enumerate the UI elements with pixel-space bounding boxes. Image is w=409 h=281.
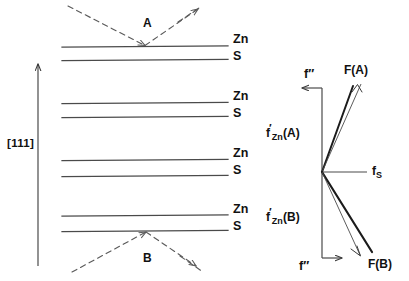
- f-s-subscript: S: [376, 170, 382, 180]
- vector-label-fb: F(B): [368, 258, 392, 270]
- f-zn-b-subscript: Zn: [272, 216, 283, 226]
- layer-label-s-1: S: [233, 50, 242, 63]
- lattice-plane-group: [62, 46, 228, 232]
- diffraction-rays-a: [68, 6, 198, 46]
- fa-thin: [322, 84, 361, 172]
- vector-resultant-fb: [322, 172, 372, 256]
- vector-resultant-fa: [322, 84, 362, 172]
- layer-label-s-2: S: [233, 107, 242, 120]
- lattice-line-zn-4: [62, 215, 228, 216]
- fa-thick: [322, 86, 353, 172]
- layer-label-zn-3: Zn: [233, 147, 249, 160]
- lattice-line-s-4: [62, 231, 228, 232]
- vector-label-f-double-prime-bottom: f″: [299, 260, 309, 273]
- incident-ray-b: [72, 232, 146, 272]
- vector-label-fa: F(A): [344, 64, 368, 76]
- diffraction-rays-a-tail: [178, 6, 202, 22]
- layer-label-zn-4: Zn: [233, 203, 249, 216]
- f-zn-a-argument: (A): [283, 126, 300, 140]
- incident-ray-a: [68, 6, 145, 46]
- diffraction-rays-b-tail: [180, 256, 203, 272]
- f-zn-b-argument: (B): [283, 210, 300, 224]
- figure-canvas: A B [111] Zn S Zn S Zn S Zn S f″ f″ F(A)…: [0, 0, 409, 281]
- lattice-line-s-1: [62, 60, 228, 61]
- diffraction-point-label-b: B: [143, 252, 152, 264]
- lattice-line-s-2: [62, 117, 228, 118]
- lattice-line-zn-3: [62, 160, 228, 161]
- fb-thick: [322, 172, 372, 252]
- layer-label-zn-1: Zn: [233, 33, 249, 46]
- layer-label-zn-2: Zn: [233, 90, 249, 103]
- fb-arrowhead: [351, 246, 361, 256]
- lattice-line-zn-1: [62, 46, 228, 47]
- vector-label-f-zn-a: f′Zn(A): [266, 123, 300, 142]
- vector-label-f-double-prime-top: f″: [304, 68, 314, 81]
- f-zn-a-subscript: Zn: [272, 132, 283, 142]
- figure-vector-layer: [0, 0, 409, 281]
- diffraction-rays-b: [72, 232, 196, 272]
- lattice-line-s-3: [62, 176, 228, 177]
- direction-label-111: [111]: [7, 138, 34, 150]
- vector-label-f-s: fS: [372, 165, 382, 180]
- diffracted-ray-b: [146, 232, 196, 266]
- layer-label-s-4: S: [233, 220, 242, 233]
- diffraction-point-label-a: A: [143, 17, 152, 29]
- fb-thin: [322, 172, 360, 255]
- lattice-line-zn-2: [62, 103, 228, 104]
- vector-label-f-zn-b: f′Zn(B): [266, 207, 300, 226]
- layer-label-s-3: S: [233, 164, 242, 177]
